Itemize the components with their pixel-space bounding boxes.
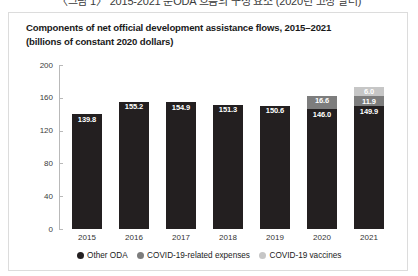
legend-item-covid-vaccines[interactable]: COVID-19 vaccines xyxy=(259,251,341,260)
chart-plot-area: 200 160 120 80 40 0 139.8 155.2 xyxy=(9,13,409,272)
y-tick-label-160: 160 xyxy=(13,94,53,102)
x-axis-label-2021: 2021 xyxy=(347,233,391,242)
legend-item-covid-expenses[interactable]: COVID-19-related expenses xyxy=(137,251,250,260)
legend-label-covid-expenses: COVID-19-related expenses xyxy=(147,251,250,260)
legend-dot-covid-vaccines-icon xyxy=(259,252,266,259)
y-tick-label-200: 200 xyxy=(13,62,53,70)
bar-group-2021[interactable]: 6.0 11.9 149.9 xyxy=(354,87,384,229)
x-axis-label-2020: 2020 xyxy=(300,233,344,242)
bar-segment-covid-vaccines-2021[interactable]: 6.0 xyxy=(354,87,384,97)
bar-value-other-oda-2020: 146.0 xyxy=(307,111,337,119)
bar-value-other-oda-2017: 154.9 xyxy=(166,104,196,112)
legend-item-other-oda[interactable]: Other ODA xyxy=(77,251,128,260)
x-axis-label-2018: 2018 xyxy=(206,233,250,242)
bar-segment-other-oda-2018[interactable]: 151.3 xyxy=(213,105,243,229)
bar-group-2017[interactable]: 154.9 xyxy=(166,102,196,229)
bar-value-covid-expenses-2020: 16.6 xyxy=(307,97,337,105)
bar-value-other-oda-2018: 151.3 xyxy=(213,106,243,114)
bar-series-container: 139.8 155.2 154.9 151.3 150. xyxy=(59,65,404,229)
legend-dot-other-oda-icon xyxy=(77,252,84,259)
bar-group-2016[interactable]: 155.2 xyxy=(119,102,149,229)
bar-segment-other-oda-2021[interactable]: 149.9 xyxy=(354,106,384,229)
bar-group-2018[interactable]: 151.3 xyxy=(213,105,243,229)
figure-card: Components of net official development a… xyxy=(8,12,408,271)
bar-segment-covid-expenses-2021[interactable]: 11.9 xyxy=(354,96,384,106)
bar-value-other-oda-2015: 139.8 xyxy=(72,116,102,124)
bar-segment-covid-expenses-2020[interactable]: 16.6 xyxy=(307,96,337,110)
bar-value-other-oda-2019: 150.6 xyxy=(260,107,290,115)
bar-segment-other-oda-2020[interactable]: 146.0 xyxy=(307,109,337,229)
x-axis-label-2017: 2017 xyxy=(159,233,203,242)
legend-label-other-oda: Other ODA xyxy=(87,251,128,260)
y-tick-label-0: 0 xyxy=(13,226,53,234)
x-axis-label-2015: 2015 xyxy=(65,233,109,242)
y-tick-label-40: 40 xyxy=(13,193,53,201)
y-tick-label-80: 80 xyxy=(13,160,53,168)
y-tick-label-120: 120 xyxy=(13,127,53,135)
bar-segment-other-oda-2017[interactable]: 154.9 xyxy=(166,102,196,229)
x-axis-label-2019: 2019 xyxy=(253,233,297,242)
bar-value-covid-expenses-2021: 11.9 xyxy=(354,98,384,106)
bar-value-covid-vaccines-2021: 6.0 xyxy=(354,88,384,96)
bar-group-2019[interactable]: 150.6 xyxy=(260,106,290,230)
legend-label-covid-vaccines: COVID-19 vaccines xyxy=(269,251,341,260)
bar-group-2020[interactable]: 16.6 146.0 xyxy=(307,96,337,229)
y-tick-0 xyxy=(59,229,63,230)
bar-segment-other-oda-2015[interactable]: 139.8 xyxy=(72,114,102,229)
chart-legend: Other ODA COVID-19-related expenses COVI… xyxy=(9,251,409,260)
bar-segment-other-oda-2016[interactable]: 155.2 xyxy=(119,102,149,229)
legend-dot-covid-expenses-icon xyxy=(137,252,144,259)
bar-group-2015[interactable]: 139.8 xyxy=(72,114,102,229)
korean-figure-caption: 〈그림 1〉 2015-2021 순ODA 흐름의 구성 요소 (2020년 고… xyxy=(0,0,418,7)
bar-segment-other-oda-2019[interactable]: 150.6 xyxy=(260,106,290,230)
x-axis-label-2016: 2016 xyxy=(112,233,156,242)
bar-value-other-oda-2021: 149.9 xyxy=(354,108,384,116)
bar-value-other-oda-2016: 155.2 xyxy=(119,103,149,111)
